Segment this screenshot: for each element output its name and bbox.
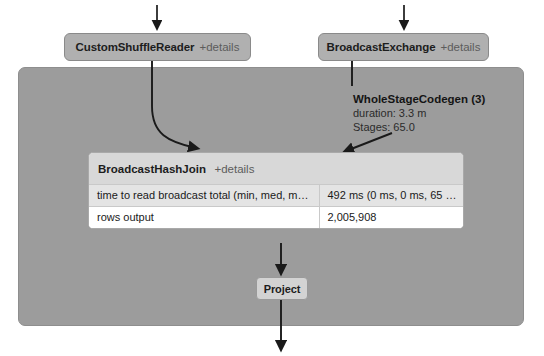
query-plan-diagram: CustomShuffleReader +details BroadcastEx… [0,0,544,356]
panel-header: BroadcastHashJoin +details [89,153,463,184]
node-label: Project [264,283,301,295]
node-custom-shuffle-reader[interactable]: CustomShuffleReader +details [64,33,251,61]
node-broadcast-exchange[interactable]: BroadcastExchange +details [318,33,489,61]
whole-stage-codegen-label: WholeStageCodegen (3) duration: 3.3 m St… [353,92,485,134]
node-broadcast-hash-join[interactable]: BroadcastHashJoin +details time to read … [88,152,464,229]
node-project[interactable]: Project [256,277,308,300]
node-label: CustomShuffleReader [76,41,195,53]
metric-value: 492 ms (0 ms, 0 ms, 65 ms) [319,185,464,207]
details-link[interactable]: +details [214,163,254,175]
metric-value: 2,005,908 [319,207,464,229]
cluster-duration: duration: 3.3 m [353,106,485,120]
table-row: rows output 2,005,908 [89,207,464,229]
details-link[interactable]: +details [440,41,480,53]
metric-key: time to read broadcast total (min, med, … [89,185,319,207]
cluster-title: WholeStageCodegen (3) [353,92,485,106]
cluster-stages: Stages: 65.0 [353,120,485,134]
table-row: time to read broadcast total (min, med, … [89,185,464,207]
node-label: BroadcastHashJoin [98,163,206,175]
node-label: BroadcastExchange [327,41,436,53]
metric-key: rows output [89,207,319,229]
details-link[interactable]: +details [199,41,239,53]
metrics-table: time to read broadcast total (min, med, … [89,184,464,228]
